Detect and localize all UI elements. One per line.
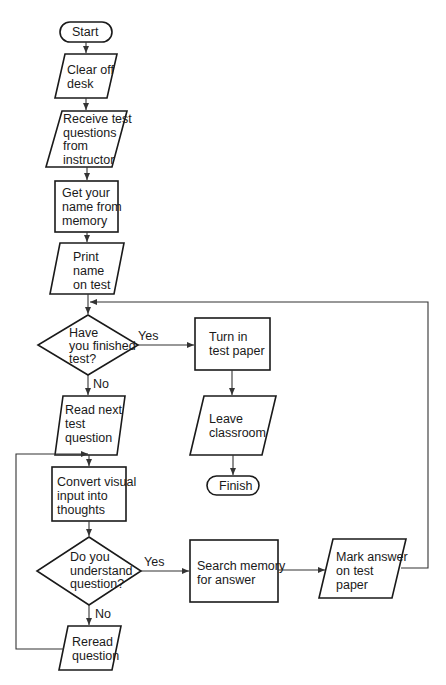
flowchart-canvas: Start Clear off desk Receive test questi… <box>0 0 446 685</box>
turn-in-label: Turn in test paper <box>209 330 265 358</box>
clear-desk-label: Clear off desk <box>67 63 114 91</box>
mark-answer-label: Mark answer on test paper <box>336 550 408 592</box>
receive-questions-label: Receive test questions from instructor <box>63 113 132 167</box>
print-name-label: Print name on test <box>73 250 111 292</box>
convert-input-label: Convert visual input into thoughts <box>57 475 136 517</box>
finished-yes-label: Yes <box>138 329 158 343</box>
finish-label: Finish <box>219 479 252 493</box>
search-memory-label: Search memory for answer <box>197 559 285 587</box>
start-label: Start <box>72 25 98 39</box>
finished-no-label: No <box>93 377 109 391</box>
get-name-label: Get your name from memory <box>62 186 122 228</box>
understand-question-label: Do you understand question? <box>70 551 133 592</box>
reread-label: Reread question <box>72 635 119 663</box>
understand-yes-label: Yes <box>144 555 164 569</box>
leave-classroom-label: Leave classroom <box>209 412 266 440</box>
understand-no-label: No <box>95 607 111 621</box>
read-next-label: Read next test question <box>65 403 122 445</box>
finished-test-label: Have you finished test? <box>69 327 136 366</box>
